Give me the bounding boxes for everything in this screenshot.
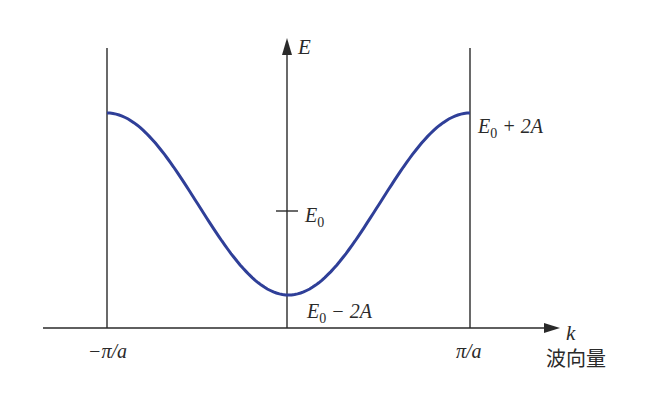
wave-vector-caption: 波向量 [546, 347, 606, 371]
energy-band-curve [107, 113, 470, 295]
right-boundary-label: π/a [456, 340, 482, 362]
k-axis-arrow-icon [544, 323, 560, 333]
left-boundary-label: −π/a [88, 340, 127, 362]
e0-label: E0 [304, 204, 324, 230]
band-diagram: E E0 + 2A E0 E0 − 2A −π/a π/a k 波向量 [0, 0, 648, 397]
max-energy-label: E0 + 2A [477, 115, 544, 141]
e-axis-arrow-icon [282, 38, 292, 55]
min-energy-label: E0 − 2A [306, 300, 373, 326]
k-axis-label: k [566, 321, 576, 345]
e-axis-label: E [297, 35, 311, 59]
